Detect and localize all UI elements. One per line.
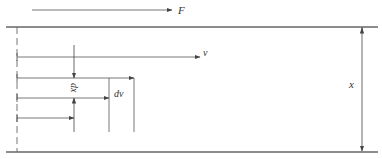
dv-label: dv: [114, 88, 124, 99]
force-label: F: [177, 4, 185, 16]
velocity-arrow-layer-4: [17, 114, 74, 122]
velocity-arrow-layer-3: [17, 78, 109, 132]
dx-label: dx: [69, 83, 80, 93]
distance-label: x: [348, 78, 354, 90]
viscosity-diagram: F v dx dv x: [0, 0, 382, 159]
velocity-label: v: [203, 47, 208, 58]
velocity-arrow-top: [17, 53, 200, 61]
